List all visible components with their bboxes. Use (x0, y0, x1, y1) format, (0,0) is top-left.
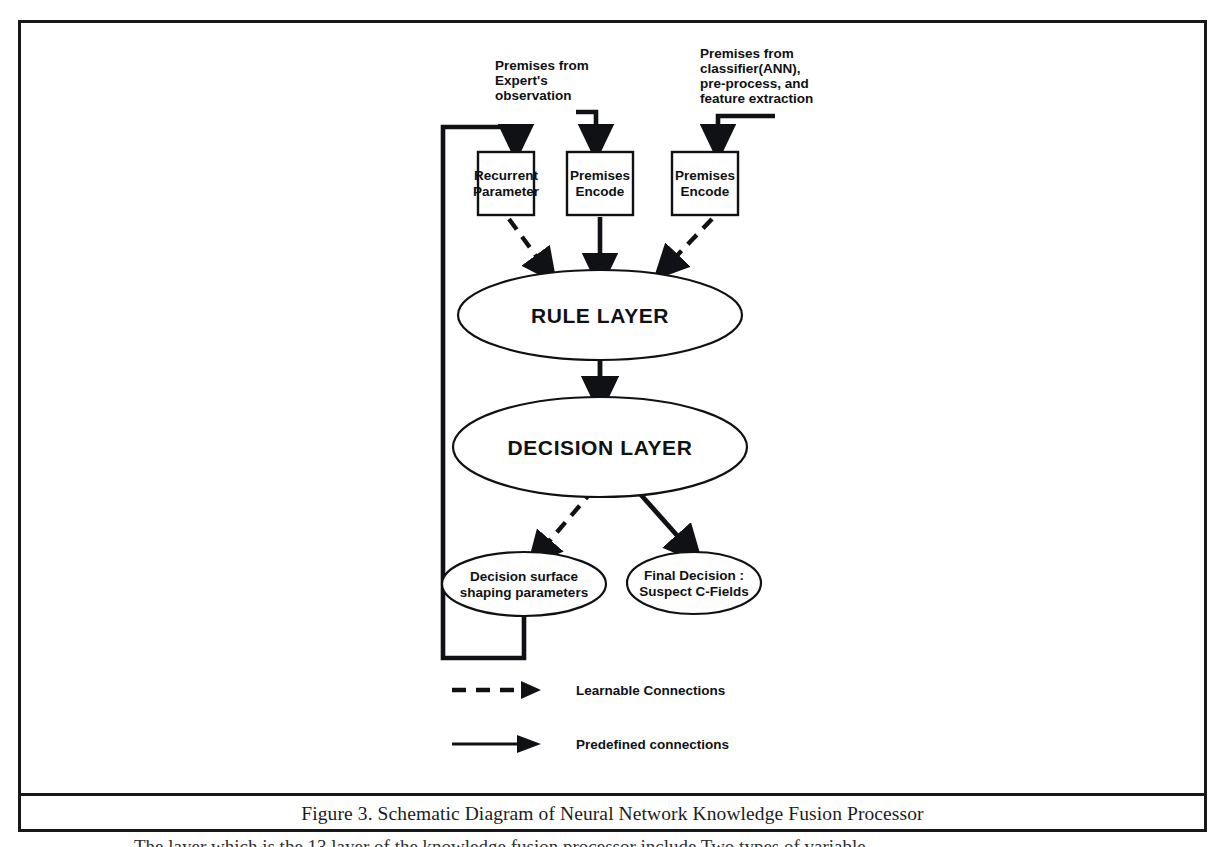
node-decision-surface[interactable]: Decision surface shaping parameters (442, 552, 606, 616)
legend-arrowhead (517, 735, 541, 753)
node-label-line: Encode (681, 184, 730, 199)
connector-recurrent-to-rule (509, 219, 545, 268)
node-label-line: Suspect C-Fields (639, 584, 749, 599)
annotation-line: Premises from (495, 58, 589, 73)
node-label-line: RULE LAYER (531, 304, 669, 327)
node-recurrent-parameter[interactable]: Recurrent Parameter (473, 152, 540, 215)
node-label-line: Recurrent (474, 168, 538, 183)
legend-label: Predefined connections (576, 737, 729, 752)
node-premises-encode-classifier[interactable]: Premises Encode (672, 152, 738, 215)
node-final-decision[interactable]: Final Decision : Suspect C-Fields (627, 552, 761, 614)
figure-page: Premises from Expert's observation Premi… (0, 0, 1219, 847)
connector-decision-to-final (634, 487, 690, 550)
node-label-line: Premises (570, 168, 630, 183)
legend: Learnable Connections Predefined connect… (452, 681, 729, 753)
node-label-line: shaping parameters (460, 585, 588, 600)
connector-classifier-to-encode (718, 116, 775, 143)
node-label-line: Encode (576, 184, 625, 199)
node-premises-encode-expert[interactable]: Premises Encode (567, 152, 633, 215)
annotation-line: classifier(ANN), (700, 61, 801, 76)
node-label-line: DECISION LAYER (508, 436, 693, 459)
node-label-line: Final Decision : (644, 568, 744, 583)
schematic-diagram: Premises from Expert's observation Premi… (0, 0, 1219, 847)
annotation-line: Premises from (700, 46, 794, 61)
annotation-classifier-premises: Premises from classifier(ANN), pre-proce… (700, 46, 813, 106)
annotation-expert-premises: Premises from Expert's observation (495, 58, 589, 103)
annotation-line: feature extraction (700, 91, 813, 106)
annotation-line: observation (495, 88, 572, 103)
figure-caption: Figure 3. Schematic Diagram of Neural Ne… (18, 797, 1207, 830)
node-rule-layer[interactable]: RULE LAYER (458, 270, 742, 360)
node-ellipse (442, 552, 606, 616)
legend-arrowhead (521, 681, 541, 699)
connector-expert-to-encode (576, 112, 596, 143)
node-label-line: Parameter (473, 184, 540, 199)
node-label-line: Decision surface (470, 569, 579, 584)
page-body-text: The layer which is the 13 layer of the k… (98, 836, 1158, 847)
annotation-line: pre-process, and (700, 76, 809, 91)
annotation-line: Expert's (495, 73, 548, 88)
node-ellipse (627, 552, 761, 614)
legend-item-learnable: Learnable Connections (452, 681, 725, 699)
connector-encode-classifier-to-rule (667, 219, 712, 266)
legend-label: Learnable Connections (576, 683, 725, 698)
node-decision-layer[interactable]: DECISION LAYER (453, 397, 747, 497)
legend-item-predefined: Predefined connections (452, 735, 729, 753)
node-label-line: Premises (675, 168, 735, 183)
connector-decision-to-surface (540, 489, 594, 552)
